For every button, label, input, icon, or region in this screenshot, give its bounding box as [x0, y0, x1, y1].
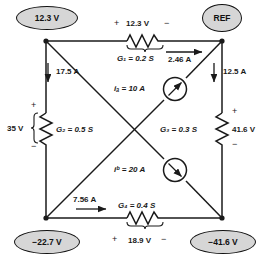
g4-voltage-label: 18.9 V	[128, 237, 151, 245]
g3-plus-sign: +	[232, 107, 237, 116]
g3-voltage-label: 41.6 V	[232, 126, 255, 134]
g1-value-label: G₁ = 0.2 S	[117, 55, 154, 63]
current-source-a-label: iₐ = 10 A	[114, 85, 145, 93]
node-dot-top-left	[43, 38, 48, 43]
g4-minus-sign: −	[161, 235, 166, 244]
g2-value-label: G₂ = 0.5 S	[56, 126, 93, 134]
g4-plus-sign: +	[112, 235, 117, 244]
current-label-top-right: 2.46 A	[168, 56, 191, 64]
current-label-right-branch: 12.5 A	[223, 68, 246, 76]
g1-minus-sign: −	[164, 19, 169, 28]
node-label-top-right: REF	[202, 4, 242, 32]
g3-minus-sign: −	[232, 140, 237, 149]
g1-plus-sign: +	[114, 19, 119, 28]
node-dot-top-right	[219, 38, 224, 43]
current-label-bottom: 7.56 A	[73, 196, 96, 204]
g2-plus-sign: +	[31, 101, 36, 110]
g4-resistor-zigzag	[127, 212, 161, 224]
g1-voltage-label: 12.3 V	[126, 20, 149, 28]
g3-resistor-zigzag	[216, 113, 228, 147]
circuit-diagram-figure: 12.3 V REF −22.7 V −41.6 V + 12.3 V − G₁…	[0, 0, 271, 260]
g1-brace	[127, 45, 163, 52]
g2-minus-sign: −	[31, 142, 36, 151]
g1-resistor-zigzag	[127, 35, 161, 47]
node-dot-bottom-left	[43, 215, 48, 220]
current-label-left-branch: 17.5 A	[56, 68, 79, 76]
g4-value-label: G₄ = 0.4 S	[118, 202, 155, 210]
node-label-bottom-left: −22.7 V	[14, 230, 80, 254]
current-source-b-label: iᵇ = 20 A	[114, 166, 145, 174]
g2-resistor-zigzag	[40, 113, 52, 147]
node-label-bottom-right: −41.6 V	[190, 230, 256, 254]
node-dot-bottom-right	[219, 215, 224, 220]
g4-brace	[127, 222, 163, 229]
wire-diagonal-source-b-lower	[186, 181, 222, 218]
wire-diagonal-source-a-upper	[186, 41, 222, 78]
g3-value-label: G₃ = 0.3 S	[160, 126, 197, 134]
node-label-top-left: 12.3 V	[16, 6, 78, 30]
g2-voltage-label: 35 V	[7, 125, 23, 133]
g2-brace	[31, 113, 38, 143]
circuit-schematic-svg	[0, 0, 271, 260]
